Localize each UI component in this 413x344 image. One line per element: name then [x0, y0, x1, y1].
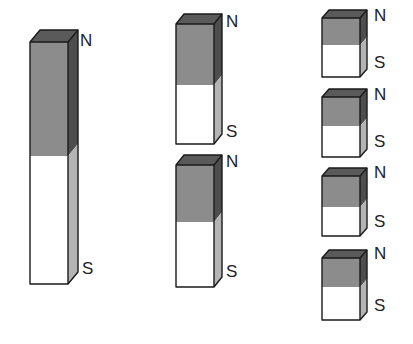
north-pole-face — [30, 42, 68, 156]
south-label: S — [374, 212, 385, 231]
north-pole-face — [322, 176, 360, 207]
bar-magnet: NS — [322, 244, 386, 320]
north-side-face — [68, 30, 78, 156]
north-side-face — [214, 14, 222, 85]
south-label: S — [82, 259, 93, 278]
south-label: S — [226, 122, 237, 141]
bar-magnet: NS — [30, 30, 93, 284]
south-label: S — [374, 132, 385, 151]
south-side-face — [214, 212, 222, 287]
north-pole-face — [176, 24, 214, 85]
south-pole-face — [322, 207, 360, 236]
north-label: N — [374, 6, 386, 25]
south-label: S — [226, 262, 237, 281]
north-label: N — [374, 244, 386, 263]
south-pole-face — [322, 287, 360, 320]
north-pole-face — [176, 165, 214, 222]
magnet-group-halves: NSNS — [176, 12, 238, 287]
south-label: S — [374, 296, 385, 315]
bar-magnet: NS — [322, 85, 386, 157]
north-label: N — [374, 163, 386, 182]
magnet-group-whole-magnet: NS — [30, 30, 93, 284]
south-side-face — [214, 75, 222, 144]
south-pole-face — [176, 85, 214, 144]
north-label: N — [226, 152, 238, 171]
south-pole-face — [322, 45, 360, 77]
north-pole-face — [322, 18, 360, 45]
magnet-diagram: NSNSNSNSNSNSNS — [0, 0, 413, 344]
south-label: S — [374, 53, 385, 72]
north-pole-face — [322, 258, 360, 287]
north-label: N — [226, 12, 238, 31]
bar-magnet: NS — [176, 12, 238, 144]
bar-magnet: NS — [322, 6, 386, 77]
north-side-face — [214, 155, 222, 222]
south-pole-face — [176, 222, 214, 287]
bar-magnet: NS — [322, 163, 386, 236]
bar-magnet: NS — [176, 152, 238, 287]
south-side-face — [68, 144, 78, 284]
north-label: N — [80, 31, 92, 50]
south-pole-face — [322, 126, 360, 157]
north-pole-face — [322, 97, 360, 126]
magnet-group-quarters: NSNSNSNS — [322, 6, 386, 320]
north-label: N — [374, 85, 386, 104]
south-pole-face — [30, 156, 68, 284]
